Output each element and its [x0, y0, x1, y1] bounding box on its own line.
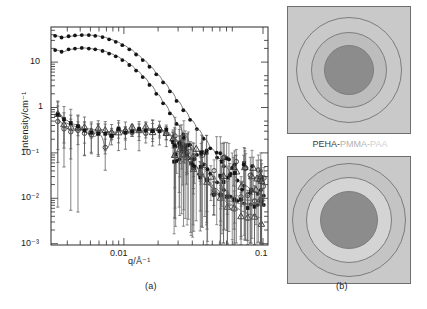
block-copolymer-label: PEHA-PMMA-PAA: [289, 139, 411, 149]
label-segment-paa: PAA: [370, 139, 387, 149]
core-shell-corona-micelle-top: [287, 6, 411, 134]
data-series-layer: [53, 33, 266, 244]
ytick-1e-2: 10⁻²: [21, 192, 39, 202]
ytick-10: 10: [30, 56, 40, 66]
core-circle-bottom: [320, 191, 378, 249]
panel-b-caption: (b): [336, 281, 348, 291]
panel-b-micelle-diagrams: PEHA-PMMA-PAA (b): [283, 0, 427, 309]
y-axis-label: Intensity/cm⁻¹: [20, 72, 30, 170]
panel-a-scattering-plot: 10 1 10⁻¹ 10⁻² 10⁻³ 0.01 0.1 Intensity/c…: [0, 0, 280, 309]
panel-a-caption: (a): [145, 281, 157, 291]
ytick-1: 1: [38, 101, 43, 111]
figure-root: 10 1 10⁻¹ 10⁻² 10⁻³ 0.01 0.1 Intensity/c…: [0, 0, 427, 309]
label-segment-peha: PEHA-: [313, 139, 341, 149]
x-axis-label: q/Å⁻¹: [128, 256, 151, 266]
series-high-q-overlap-cloud: [171, 117, 266, 243]
xtick-0-1: 0.1: [255, 248, 268, 258]
label-segment-pmma: PMMA-: [340, 139, 370, 149]
core-circle-top: [324, 45, 374, 95]
xtick-0-01: 0.01: [110, 248, 128, 258]
ytick-1e-3: 10⁻³: [21, 238, 39, 248]
core-shell-corona-micelle-bottom: [287, 156, 411, 284]
